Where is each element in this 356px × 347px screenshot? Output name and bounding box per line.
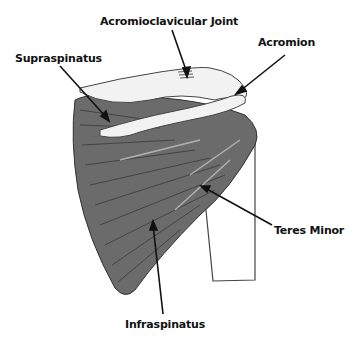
- label-acromioclavicular-joint: Acromioclavicular Joint: [100, 15, 238, 28]
- label-teres-minor: Teres Minor: [274, 224, 344, 237]
- clavicle-bone: [80, 68, 247, 103]
- shoulder-anatomy-diagram: Acromioclavicular Joint Acromion Suprasp…: [0, 0, 356, 347]
- label-acromion: Acromion: [258, 36, 315, 49]
- label-supraspinatus: Supraspinatus: [15, 52, 102, 65]
- label-infraspinatus: Infraspinatus: [125, 318, 205, 331]
